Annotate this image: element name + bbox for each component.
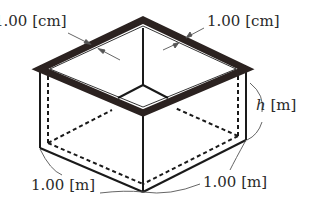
base-side-label-left: 1.00 [m] — [31, 178, 95, 193]
height-label: h [m] — [256, 98, 296, 113]
height-variable: h — [256, 96, 266, 114]
wall-thickness-label-left: 1.00 [cm] — [0, 14, 67, 29]
wall-thickness-label-right: 1.00 [cm] — [207, 14, 280, 29]
base-side-label-right: 1.00 [m] — [203, 175, 267, 190]
height-unit: [m] — [266, 96, 297, 114]
